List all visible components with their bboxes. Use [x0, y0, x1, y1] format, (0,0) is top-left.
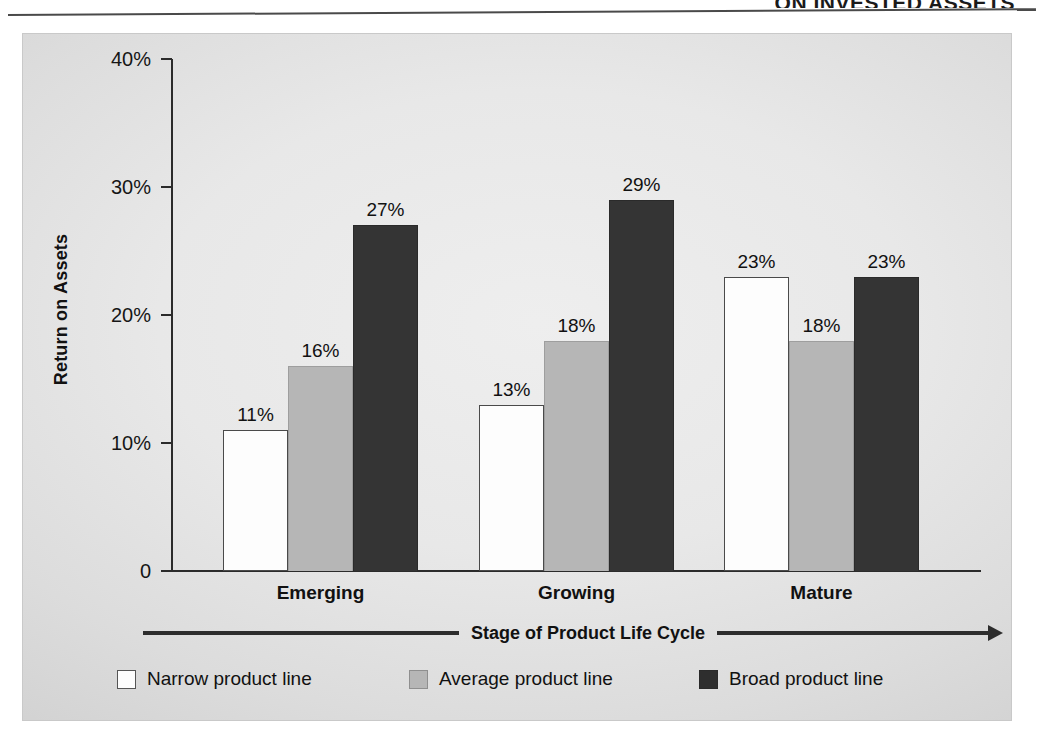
legend-item-narrow[interactable]: Narrow product line [117, 668, 409, 690]
legend-label: Narrow product line [147, 668, 312, 690]
category-label-mature: Mature [790, 582, 852, 604]
y-axis-tick-label: 30% [23, 176, 151, 199]
legend-swatch-icon [117, 670, 136, 689]
y-axis-tick-label: 0 [23, 560, 151, 583]
category-label-growing: Growing [538, 582, 615, 604]
legend-swatch-icon [409, 670, 428, 689]
x-axis-title-row: Stage of Product Life Cycle [143, 620, 1003, 646]
bar-value-label: 23% [737, 251, 775, 273]
header-divider-rule [8, 8, 1036, 16]
y-axis-tick [161, 58, 172, 60]
chart-legend: Narrow product lineAverage product lineB… [117, 662, 937, 696]
bar-value-label: 13% [492, 379, 530, 401]
chart-panel: Return on Assets 010%20%30%40% 11%16%27%… [22, 33, 1012, 721]
category-label-emerging: Emerging [277, 582, 365, 604]
y-axis-tick [161, 570, 172, 572]
y-axis-tick-label: 20% [23, 304, 151, 327]
bar-value-label: 27% [366, 199, 404, 221]
y-axis-tick-label: 40% [23, 48, 151, 71]
bar-mature-average[interactable]: 18% [789, 341, 854, 571]
chart-plot-area: Return on Assets 010%20%30%40% 11%16%27%… [23, 34, 1013, 722]
bar-value-label: 18% [802, 315, 840, 337]
bar-value-label: 11% [237, 404, 274, 426]
bar-growing-narrow[interactable]: 13% [479, 405, 544, 571]
bar-value-label: 16% [301, 340, 339, 362]
legend-item-average[interactable]: Average product line [409, 668, 699, 690]
right-arrow-head [988, 625, 1003, 641]
bar-emerging-broad[interactable]: 27% [353, 225, 418, 571]
bar-value-label: 29% [622, 174, 660, 196]
page-header: ON INVESTED ASSETS [0, 0, 1043, 28]
legend-swatch-icon [699, 670, 718, 689]
left-arrow-line-icon [143, 631, 459, 635]
bar-growing-broad[interactable]: 29% [609, 200, 674, 571]
bar-growing-average[interactable]: 18% [544, 341, 609, 571]
legend-label: Average product line [439, 668, 613, 690]
legend-item-broad[interactable]: Broad product line [699, 668, 883, 690]
bar-emerging-average[interactable]: 16% [288, 366, 353, 571]
right-arrow-line [717, 631, 989, 635]
bar-value-label: 23% [867, 251, 905, 273]
bar-mature-narrow[interactable]: 23% [724, 277, 789, 571]
bar-value-label: 18% [557, 315, 595, 337]
bar-emerging-narrow[interactable]: 11% [223, 430, 288, 571]
x-axis-title: Stage of Product Life Cycle [459, 623, 717, 644]
y-axis-tick [161, 442, 172, 444]
y-axis-tick [161, 314, 172, 316]
y-axis-tick [161, 186, 172, 188]
y-axis-tick-label: 10% [23, 432, 151, 455]
bar-mature-broad[interactable]: 23% [854, 277, 919, 571]
right-arrow-icon [717, 628, 1003, 638]
legend-label: Broad product line [729, 668, 883, 690]
page-header-title: ON INVESTED ASSETS [775, 0, 1015, 8]
